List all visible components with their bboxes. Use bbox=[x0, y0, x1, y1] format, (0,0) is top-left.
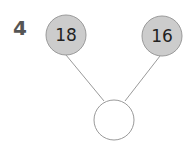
connector-left bbox=[66, 55, 104, 101]
part-value-left: 18 bbox=[55, 25, 77, 45]
part-circle-left: 18 bbox=[46, 15, 86, 55]
whole-circle[interactable] bbox=[94, 100, 134, 140]
part-circle-right: 16 bbox=[142, 16, 182, 56]
number-bond-diagram: 18 16 bbox=[0, 0, 188, 144]
part-value-right: 16 bbox=[151, 26, 173, 46]
connector-right bbox=[125, 56, 160, 101]
